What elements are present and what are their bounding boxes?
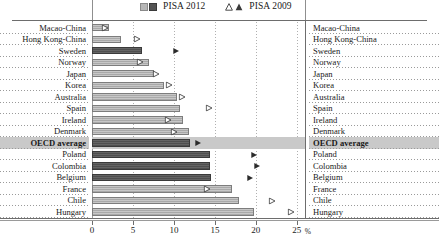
category-row-right: Korea xyxy=(309,80,439,92)
bar-pisa-2012 xyxy=(92,70,154,77)
category-row-left: Colombia xyxy=(0,160,89,172)
bar-row xyxy=(92,126,305,138)
category-label: Japan xyxy=(66,70,86,79)
triangle-open-icon xyxy=(225,3,233,11)
x-tick-label: 25 xyxy=(292,226,301,235)
category-row-right: Norway xyxy=(309,57,439,69)
category-label: Colombia xyxy=(52,162,86,171)
category-label: Poland xyxy=(62,150,86,159)
category-row-left: OECD average xyxy=(0,137,89,149)
triangle-open-icon xyxy=(203,186,210,193)
bar-pisa-2012 xyxy=(92,162,210,169)
x-tick-label: 5 xyxy=(131,226,136,235)
category-label: Belgium xyxy=(313,173,343,182)
triangle-filled-icon xyxy=(247,174,254,181)
bar-pisa-2012 xyxy=(92,151,210,158)
bar-pisa-2012 xyxy=(92,47,142,54)
bar-row xyxy=(92,183,305,195)
legend-label-pisa-2012: PISA 2012 xyxy=(163,2,205,12)
category-row-left: Sweden xyxy=(0,45,89,57)
category-label: Spain xyxy=(66,104,86,113)
category-row-right: Poland xyxy=(309,149,439,161)
x-axis: 0510152025% xyxy=(0,221,439,248)
category-label: Chile xyxy=(313,196,332,205)
category-row-left: Spain xyxy=(0,103,89,115)
category-label: Poland xyxy=(313,150,337,159)
category-row-right: OECD average xyxy=(309,137,439,149)
category-label: France xyxy=(313,185,336,194)
triangle-open-icon xyxy=(288,209,295,216)
category-label: Ireland xyxy=(62,116,86,125)
category-row-right: France xyxy=(309,183,439,195)
pisa-bar-chart: PISA 2012 PISA 2009 Macao-ChinaHong Kong… xyxy=(0,0,439,248)
bar-pisa-2012 xyxy=(92,82,164,89)
bar-pisa-2012 xyxy=(92,36,121,43)
bar-pisa-2012 xyxy=(92,139,190,146)
bar-row xyxy=(92,91,305,103)
category-label: Ireland xyxy=(313,116,337,125)
category-row-left: Korea xyxy=(0,80,89,92)
bar-row xyxy=(92,68,305,80)
category-label: Belgium xyxy=(56,173,86,182)
category-row-left: Belgium xyxy=(0,172,89,184)
triangle-filled-icon xyxy=(173,47,180,54)
x-tick-label: 0 xyxy=(90,226,95,235)
triangle-open-icon xyxy=(136,59,143,66)
bar-row xyxy=(92,22,305,34)
category-label: Hungary xyxy=(56,208,86,217)
category-label: Australia xyxy=(54,93,86,102)
bar-row xyxy=(92,206,305,218)
bar-row xyxy=(92,80,305,92)
triangle-open-icon xyxy=(165,116,172,123)
category-label: Sweden xyxy=(313,46,340,55)
bar-row xyxy=(92,103,305,115)
category-row-left: France xyxy=(0,183,89,195)
category-label: Australia xyxy=(313,93,345,102)
square-light-icon xyxy=(140,3,148,11)
category-row-left: Denmark xyxy=(0,126,89,138)
category-label: OECD average xyxy=(30,139,86,148)
bar-pisa-2012 xyxy=(92,174,211,181)
category-row-right: Macao-China xyxy=(309,22,439,34)
chart-legend: PISA 2012 PISA 2009 xyxy=(0,0,439,20)
category-label: Norway xyxy=(313,58,341,67)
triangle-filled-icon xyxy=(194,140,201,147)
category-row-right: Sweden xyxy=(309,45,439,57)
category-row-left: Japan xyxy=(0,68,89,80)
category-label: Japan xyxy=(313,70,333,79)
bar-pisa-2012 xyxy=(92,93,177,100)
category-row-left: Poland xyxy=(0,149,89,161)
category-row-right: Colombia xyxy=(309,160,439,172)
category-row-right: Hong Kong-China xyxy=(309,34,439,46)
legend-divider-left xyxy=(92,0,93,20)
triangle-open-icon xyxy=(102,24,109,31)
bar-pisa-2012 xyxy=(92,197,239,204)
row-rule xyxy=(309,217,439,218)
category-label: Norway xyxy=(58,58,86,67)
category-row-left: Hong Kong-China xyxy=(0,34,89,46)
triangle-open-icon xyxy=(166,82,173,89)
bar-row xyxy=(92,160,305,172)
legend-divider-right xyxy=(305,0,306,20)
plot-frame-bottom xyxy=(0,218,439,219)
category-row-right: Australia xyxy=(309,91,439,103)
category-label: OECD average xyxy=(313,139,369,148)
bar-row xyxy=(92,195,305,207)
bar-pisa-2012 xyxy=(92,208,254,215)
legend-marker-pisa-2009 xyxy=(225,3,243,11)
category-label: Hong Kong-China xyxy=(313,35,377,44)
category-label: France xyxy=(63,185,86,194)
category-label: Sweden xyxy=(59,46,86,55)
x-tick-label: 10 xyxy=(169,226,178,235)
category-label: Denmark xyxy=(313,127,345,136)
row-rule xyxy=(0,217,89,218)
category-row-right: Belgium xyxy=(309,172,439,184)
category-label: Colombia xyxy=(313,162,347,171)
square-dark-icon xyxy=(149,3,157,11)
category-row-left: Chile xyxy=(0,195,89,207)
bar-pisa-2012 xyxy=(92,105,180,112)
category-label: Denmark xyxy=(54,127,86,136)
category-label: Korea xyxy=(65,81,86,90)
category-label: Macao-China xyxy=(39,23,86,32)
category-row-right: Chile xyxy=(309,195,439,207)
